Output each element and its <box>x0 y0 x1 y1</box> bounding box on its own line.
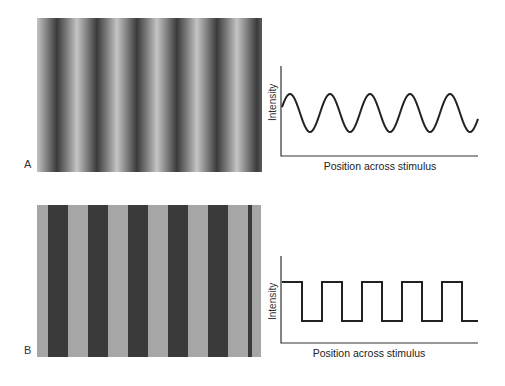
graph-a: Intensity Position across stimulus <box>267 66 478 172</box>
graph-a-ylabel: Intensity <box>267 84 278 121</box>
graph-b: Intensity Position across stimulus <box>267 256 478 359</box>
graph-b-ylabel: Intensity <box>267 283 278 320</box>
square-intensity-curve <box>282 282 478 321</box>
graph-b-xlabel: Position across stimulus <box>313 347 426 359</box>
sine-intensity-curve <box>282 94 478 132</box>
graph-a-xlabel: Position across stimulus <box>324 160 437 172</box>
graph-b-axes <box>281 256 478 343</box>
intensity-graphs: Intensity Position across stimulus Inten… <box>0 0 505 386</box>
